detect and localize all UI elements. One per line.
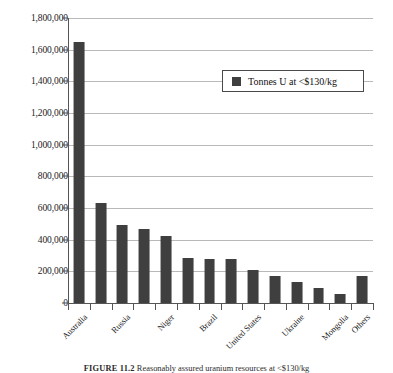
bar — [204, 259, 215, 303]
chart-legend: Tonnes U at <$130/kg — [222, 70, 364, 92]
x-axis-tick-label: Brazil — [198, 312, 220, 334]
bar-slot — [308, 18, 330, 303]
x-axis-tick-label: Russia — [109, 312, 132, 335]
x-axis-tick-mark — [286, 303, 287, 310]
y-axis-tick-label: 1,200,000 — [6, 108, 68, 118]
x-axis-tick-label: Ukraine — [280, 312, 306, 338]
y-axis-tick-label: 1,400,000 — [6, 76, 68, 86]
x-axis-tick-mark — [155, 303, 156, 310]
bar-slot — [221, 18, 243, 303]
figure-caption: FIGURE 11.2 Reasonably assured uranium r… — [0, 364, 393, 373]
x-axis-tick-label: Others — [349, 312, 372, 335]
x-axis-tick-mark — [264, 303, 265, 310]
x-axis-tick-mark — [329, 303, 330, 310]
x-axis-tick-mark — [68, 303, 69, 310]
x-axis-tick-mark — [177, 303, 178, 310]
x-axis-tick-mark — [221, 303, 222, 310]
bar — [161, 236, 172, 303]
bar — [95, 203, 106, 303]
bar — [291, 282, 302, 303]
x-axis-tick-mark — [242, 303, 243, 310]
bar-slot — [242, 18, 264, 303]
y-axis-tick-label: 800,000 — [6, 171, 68, 181]
x-axis-tick-mark — [199, 303, 200, 310]
x-axis-tick-mark — [373, 303, 374, 310]
bar — [313, 288, 324, 303]
legend-swatch-icon — [232, 77, 241, 86]
y-axis-tick-label: 1,800,000 — [6, 13, 68, 23]
bar-slot — [286, 18, 308, 303]
bar-slot — [68, 18, 90, 303]
x-axis-tick-mark — [351, 303, 352, 310]
bar-slot — [351, 18, 373, 303]
bar-series — [68, 18, 373, 303]
bar-slot — [155, 18, 177, 303]
bar — [248, 270, 259, 303]
x-axis-tick-label: Mongolia — [320, 312, 350, 342]
x-axis-tick-mark — [308, 303, 309, 310]
x-axis-tick-mark — [90, 303, 91, 310]
bar — [117, 225, 128, 303]
figure-container: 0200,000400,000600,000800,0001,000,0001,… — [0, 0, 393, 373]
bar — [357, 276, 368, 303]
y-axis-tick-label: 400,000 — [6, 235, 68, 245]
x-axis-tick-mark — [133, 303, 134, 310]
bar — [335, 294, 346, 304]
y-axis-tick-label: 0 — [6, 298, 68, 308]
y-axis: 0200,000400,000600,000800,0001,000,0001,… — [0, 0, 68, 373]
bar — [73, 42, 84, 303]
bar-slot — [264, 18, 286, 303]
bar — [139, 229, 150, 303]
figure-caption-text: Reasonably assured uranium resources at … — [137, 364, 309, 373]
bar — [270, 276, 281, 303]
bar-slot — [177, 18, 199, 303]
y-axis-tick-label: 1,600,000 — [6, 45, 68, 55]
legend-entry-label: Tonnes U at <$130/kg — [248, 76, 337, 87]
bar-slot — [329, 18, 351, 303]
x-axis-tick-label: United States — [224, 312, 263, 351]
bar — [226, 259, 237, 303]
bar-slot — [133, 18, 155, 303]
x-axis-tick-mark — [112, 303, 113, 310]
bar — [182, 258, 193, 303]
y-axis-tick-label: 1,000,000 — [6, 140, 68, 150]
y-axis-tick-label: 600,000 — [6, 203, 68, 213]
bar-slot — [112, 18, 134, 303]
bar-slot — [90, 18, 112, 303]
bar-slot — [199, 18, 221, 303]
y-axis-tick-label: 200,000 — [6, 266, 68, 276]
figure-number: FIGURE 11.2 — [84, 364, 135, 373]
x-axis-tick-label: Niger — [155, 312, 176, 333]
